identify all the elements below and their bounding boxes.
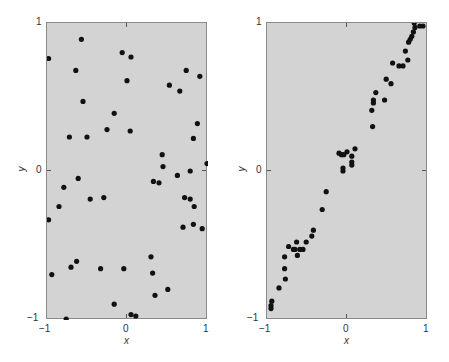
scatter-point <box>68 265 73 270</box>
left-plot-area <box>46 22 207 319</box>
scatter-point <box>371 100 376 105</box>
scatter-point <box>98 266 103 271</box>
scatter-point <box>297 247 302 252</box>
left-scatter-panel: 1 0 −1 −1 0 1 x y <box>0 0 224 362</box>
scatter-point <box>47 56 51 61</box>
x-tick-label-right: 1 <box>423 324 429 334</box>
scatter-point <box>64 316 69 320</box>
scatter-point <box>390 60 395 65</box>
scatter-point <box>151 179 156 184</box>
scatter-point <box>197 74 202 79</box>
x-tick-label-mid: 0 <box>343 324 349 334</box>
scatter-point <box>384 77 389 82</box>
scatter-point <box>76 176 81 181</box>
scatter-point <box>121 266 126 271</box>
x-tick-label-left: −1 <box>259 324 270 334</box>
scatter-point <box>282 254 287 259</box>
scatter-point <box>188 168 193 173</box>
scatter-point <box>177 89 182 94</box>
scatter-point <box>188 197 193 202</box>
scatter-point <box>340 168 345 173</box>
left-scatter-points <box>47 23 208 320</box>
scatter-point <box>160 152 165 157</box>
y-tick-label-bottom: −1 <box>247 313 258 323</box>
scatter-point <box>406 40 411 45</box>
scatter-point <box>294 239 299 244</box>
scatter-point <box>112 111 117 116</box>
scatter-point <box>295 253 300 258</box>
scatter-point <box>101 195 106 200</box>
scatter-point <box>352 146 357 151</box>
scatter-point <box>156 180 161 185</box>
scatter-point <box>412 25 417 30</box>
scatter-point <box>150 271 155 276</box>
scatter-point <box>175 173 180 178</box>
scatter-point <box>128 54 133 59</box>
y-axis-title: y <box>17 167 27 172</box>
scatter-point <box>112 302 117 307</box>
right-scatter-panel: 1 0 −1 −1 0 1 x y <box>220 0 444 362</box>
scatter-point <box>336 151 341 156</box>
scatter-point <box>128 128 133 133</box>
scatter-point <box>292 247 297 252</box>
scatter-point <box>180 225 185 230</box>
scatter-point <box>133 313 138 318</box>
x-axis-title: x <box>344 336 349 346</box>
scatter-point <box>268 306 273 311</box>
scatter-point <box>309 234 314 239</box>
scatter-point <box>382 97 387 102</box>
scatter-point <box>283 276 288 281</box>
scatter-point <box>104 127 109 132</box>
scatter-point <box>167 83 172 88</box>
scatter-point <box>276 285 281 290</box>
scatter-point <box>192 204 197 209</box>
scatter-point <box>61 185 66 190</box>
y-axis-title: y <box>237 167 247 172</box>
scatter-point <box>74 259 79 264</box>
scatter-point <box>320 207 325 212</box>
scatter-point <box>79 37 84 42</box>
scatter-point <box>195 121 200 126</box>
scatter-point <box>324 189 329 194</box>
x-axis-title: x <box>124 336 129 346</box>
scatter-point <box>165 287 170 292</box>
scatter-point <box>56 204 61 209</box>
scatter-point <box>373 90 378 95</box>
y-tick-label-bottom: −1 <box>27 313 38 323</box>
scatter-point <box>184 68 189 73</box>
scatter-point <box>160 164 165 169</box>
scatter-point <box>152 293 157 298</box>
scatter-point <box>182 195 187 200</box>
scatter-point <box>204 161 208 166</box>
right-scatter-points <box>267 23 428 320</box>
y-tick-label-top: 1 <box>256 17 262 27</box>
scatter-point <box>73 68 78 73</box>
scatter-point <box>47 217 51 222</box>
scatter-point <box>88 197 93 202</box>
x-tick-label-left: −1 <box>39 324 50 334</box>
scatter-point <box>148 254 153 259</box>
y-tick-label-mid: 0 <box>256 165 262 175</box>
scatter-point <box>311 228 316 233</box>
scatter-point <box>420 23 425 28</box>
x-tick-label-mid: 0 <box>123 324 129 334</box>
scatter-point <box>349 163 354 168</box>
scatter-point <box>286 244 291 249</box>
y-tick-label-mid: 0 <box>36 165 42 175</box>
scatter-point <box>282 266 287 271</box>
scatter-point <box>269 299 274 304</box>
scatter-point <box>49 272 54 277</box>
y-tick-label-top: 1 <box>36 17 42 27</box>
scatter-point <box>400 63 405 68</box>
scatter-point <box>128 312 133 317</box>
x-tick-label-right: 1 <box>203 324 209 334</box>
right-plot-area <box>266 22 427 319</box>
scatter-point <box>191 222 196 227</box>
scatter-point <box>403 49 408 54</box>
scatter-point <box>349 154 354 159</box>
scatter-point <box>124 78 129 83</box>
scatter-point <box>67 134 72 139</box>
scatter-point <box>120 50 125 55</box>
scatter-point <box>200 226 205 231</box>
scatter-point <box>304 239 309 244</box>
